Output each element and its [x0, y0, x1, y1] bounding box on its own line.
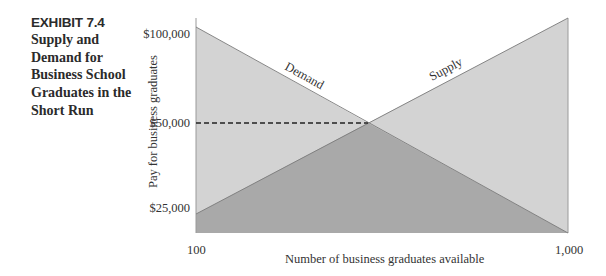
x-tick-100: 100	[187, 243, 206, 257]
supply-demand-chart: $100,000 $50,000 $25,000 100 1,000 Numbe…	[0, 0, 606, 276]
y-tick-100000: $100,000	[143, 27, 190, 41]
y-axis-label: Pay for business graduates	[146, 55, 160, 188]
y-tick-25000: $25,000	[149, 201, 190, 215]
x-axis-label: Number of business graduates available	[285, 252, 485, 266]
x-tick-1000: 1,000	[555, 243, 583, 257]
